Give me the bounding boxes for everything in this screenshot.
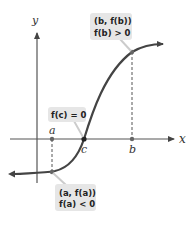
diagram-canvas: x y a c b (b, f(b)) f(b) > 0: [0, 0, 192, 225]
point-b-axis: [130, 137, 134, 141]
callout-a: (a, f(a)) f(a) < 0: [53, 173, 96, 211]
ivt-diagram: x y a c b (b, f(b)) f(b) > 0: [0, 0, 192, 225]
x-axis-label: x: [179, 132, 186, 146]
callout-a-line2: f(a) < 0: [59, 199, 95, 209]
callout-b-line2: f(b) > 0: [94, 28, 131, 38]
callout-b: (b, f(b)) f(b) > 0: [90, 13, 132, 51]
callout-a-line1: (a, f(a)): [59, 188, 96, 198]
point-a-label: a: [49, 124, 56, 137]
function-curve: [14, 44, 163, 174]
callout-c-pointer: [74, 121, 83, 137]
callout-b-line1: (b, f(b)): [94, 16, 132, 26]
callout-a-pointer: [53, 173, 66, 185]
point-b-label: b: [129, 143, 136, 156]
point-a-axis: [50, 137, 54, 141]
y-axis-label: y: [31, 14, 39, 27]
curve-left-arrow: [8, 171, 15, 178]
point-c-label: c: [81, 143, 87, 156]
callout-c-line1: f(c) = 0: [51, 110, 87, 120]
callout-b-pointer: [120, 39, 131, 51]
